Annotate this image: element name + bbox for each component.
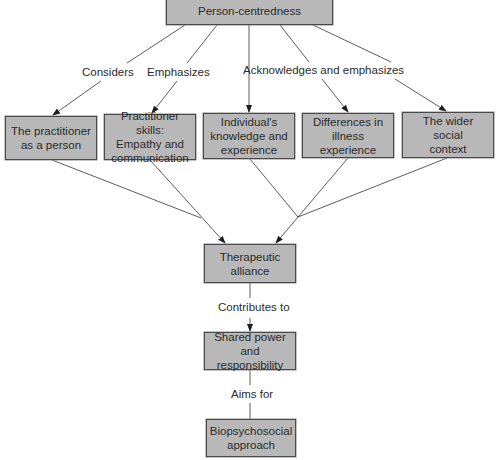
edge-social-to-merge bbox=[298, 158, 447, 217]
edge-label-emphasizes: Emphasizes bbox=[147, 65, 210, 79]
edge-considers-upper bbox=[127, 25, 185, 63]
edge-individual-to-merge bbox=[250, 159, 298, 217]
edge-acknowledges-social-lower bbox=[395, 79, 446, 111]
node-person-centredness: Person-centredness bbox=[166, 0, 333, 25]
node-social-context: The wider social context bbox=[402, 112, 494, 158]
edge-acknowledges-illness-upper bbox=[280, 25, 309, 62]
edge-label-aims: Aims for bbox=[231, 387, 273, 401]
node-shared-power: Shared power and responsibility bbox=[204, 332, 296, 370]
node-individual-knowledge: Individual's knowledge and experience bbox=[203, 113, 295, 159]
edge-acknowledges-social-upper bbox=[313, 25, 391, 62]
edge-label-acknowledges: Acknowledges and emphasizes bbox=[243, 63, 404, 77]
node-practitioner-skills: Practitioner skills: Empathy and communi… bbox=[104, 114, 196, 160]
node-practitioner-person: The practitioner as a person bbox=[5, 116, 97, 160]
node-illness-differences: Differences in illness experience bbox=[302, 113, 394, 158]
edge-label-considers: Considers bbox=[82, 65, 134, 79]
edge-acknowledges-illness-lower bbox=[322, 79, 348, 112]
concept-diagram: Person-centredness The practitioner as a… bbox=[0, 0, 496, 460]
edge-considers-lower bbox=[53, 81, 101, 115]
edge-skills-to-alliance bbox=[150, 160, 225, 243]
edge-emphasizes-upper bbox=[187, 25, 217, 63]
edge-person-to-merge bbox=[52, 160, 201, 218]
edge-illness-to-alliance bbox=[276, 158, 348, 243]
edge-label-contributes: Contributes to bbox=[218, 300, 290, 314]
node-therapeutic-alliance: Therapeutic alliance bbox=[204, 244, 296, 283]
node-biopsychosocial: Biopsychosocial approach bbox=[206, 419, 296, 457]
